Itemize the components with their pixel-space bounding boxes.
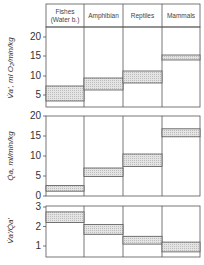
header-fishes-sub: (Water b.) — [51, 16, 80, 24]
header-mammals: Mammals — [167, 12, 196, 19]
mid-range-reptiles — [123, 154, 162, 166]
bot-range-mammals — [162, 242, 200, 252]
mid-tick-10: 10 — [30, 150, 42, 161]
bot-tick-3: 3 — [35, 201, 41, 212]
bot-tick-2: 2 — [35, 221, 41, 232]
header-fishes: Fishes — [55, 8, 75, 15]
header-reptiles: Reptiles — [131, 12, 155, 20]
comparative-physiology-chart: Fishes (Water b.) Amphibian Reptiles Mam… — [0, 0, 204, 265]
header-amphibian: Amphibian — [88, 12, 119, 20]
top-range-mammals — [162, 55, 200, 60]
mid-tick-5: 5 — [35, 170, 41, 181]
top-tick-5: 5 — [35, 89, 41, 100]
top-range-amphibian — [84, 78, 123, 90]
panel-top: 20 15 10 5 V̇a', ml O₂/min/kg — [6, 27, 200, 107]
top-tick-10: 10 — [30, 70, 42, 81]
top-range-fishes — [46, 86, 84, 101]
bot-range-fishes — [46, 212, 84, 223]
mid-tick-20: 20 — [30, 110, 42, 121]
bot-ylabel: V̇a'/Q̇a' — [6, 218, 15, 244]
bot-range-reptiles — [123, 236, 162, 244]
mid-range-amphibian — [84, 168, 123, 176]
top-tick-15: 15 — [30, 50, 42, 61]
top-ylabel: V̇a', ml O₂/min/kg — [6, 37, 15, 99]
mid-ylabel: Q̇a, ml/min/kg — [6, 131, 15, 181]
mid-range-mammals — [162, 129, 200, 137]
mid-range-fishes — [46, 186, 84, 192]
panel-bottom: 3 2 1 V̇a'/Q̇a' — [6, 201, 200, 257]
mid-tick-15: 15 — [30, 130, 42, 141]
top-range-reptiles — [123, 71, 162, 83]
bot-range-amphibian — [84, 225, 123, 235]
top-tick-20: 20 — [30, 31, 42, 42]
panel-middle: 20 15 10 5 0 Q̇a, ml/min/kg — [6, 110, 200, 201]
mid-tick-0: 0 — [35, 190, 41, 201]
header-row: Fishes (Water b.) Amphibian Reptiles Mam… — [46, 4, 200, 27]
bot-tick-1: 1 — [35, 240, 41, 251]
